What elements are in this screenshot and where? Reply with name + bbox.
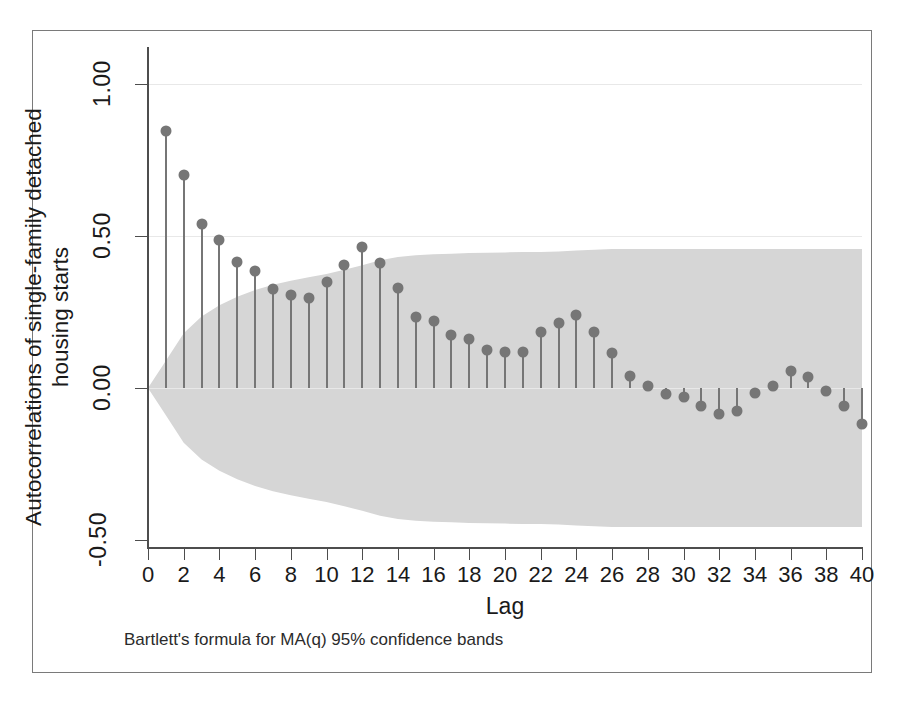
x-axis-tick-label: 24 (564, 562, 588, 588)
acf-marker (160, 126, 171, 137)
acf-marker (178, 170, 189, 181)
x-axis-tick (219, 549, 220, 560)
acf-stem (486, 350, 488, 388)
y-axis-tick (135, 236, 147, 237)
acf-marker (696, 401, 707, 412)
acf-stem (254, 271, 256, 388)
acf-marker (732, 405, 743, 416)
acf-marker (357, 241, 368, 252)
x-axis-tick-label: 30 (671, 562, 695, 588)
x-axis-tick-label: 0 (142, 562, 154, 588)
x-axis-tick (755, 549, 756, 560)
acf-marker (749, 387, 760, 398)
x-axis-tick-label: 32 (707, 562, 731, 588)
x-axis-tick-label: 28 (636, 562, 660, 588)
acf-stem (415, 317, 417, 388)
acf-stem (468, 339, 470, 388)
acf-stem (558, 323, 560, 388)
acf-marker (678, 392, 689, 403)
y-axis-tick (135, 388, 147, 389)
confidence-band-note: Bartlett's formula for MA(q) 95% confide… (124, 630, 503, 650)
acf-marker (410, 311, 421, 322)
acf-stem (343, 265, 345, 388)
acf-stem (218, 240, 220, 388)
y-axis-line (147, 47, 149, 548)
x-axis-tick (576, 549, 577, 560)
acf-marker (500, 346, 511, 357)
acf-marker (196, 218, 207, 229)
acf-stem (540, 332, 542, 388)
acf-marker (232, 256, 243, 267)
x-axis-tick (469, 549, 470, 560)
acf-marker (285, 290, 296, 301)
acf-marker (250, 265, 261, 276)
acf-marker (535, 326, 546, 337)
x-axis-tick-label: 40 (850, 562, 874, 588)
y-axis-title: Autocorrelations of single-family detach… (20, 37, 74, 597)
acf-marker (714, 408, 725, 419)
x-axis-tick (327, 549, 328, 560)
acf-marker (446, 329, 457, 340)
x-axis-tick-label: 20 (493, 562, 517, 588)
acf-marker (428, 316, 439, 327)
x-axis-tick-label: 36 (778, 562, 802, 588)
acf-stem (397, 288, 399, 388)
x-axis-tick (541, 549, 542, 560)
acf-stem (308, 298, 310, 388)
x-axis-tick-label: 18 (457, 562, 481, 588)
x-axis-tick (612, 549, 613, 560)
x-axis-tick (648, 549, 649, 560)
acf-marker (482, 345, 493, 356)
acf-marker (821, 386, 832, 397)
x-axis-tick-label: 14 (386, 562, 410, 588)
acf-marker (857, 419, 868, 430)
acf-stem (201, 224, 203, 388)
x-axis-tick-label: 10 (314, 562, 338, 588)
x-axis-tick (826, 549, 827, 560)
acf-marker (339, 259, 350, 270)
x-axis-tick (184, 549, 185, 560)
x-axis-tick (862, 549, 863, 560)
acf-marker (589, 326, 600, 337)
acf-marker (767, 381, 778, 392)
acf-marker (303, 293, 314, 304)
x-axis-tick-label: 38 (814, 562, 838, 588)
acf-stem (165, 131, 167, 388)
acf-marker (267, 284, 278, 295)
y-axis-tick (135, 84, 147, 85)
y-axis-tick (135, 540, 147, 541)
y-axis-title-line1: Autocorrelations of single-family detach… (21, 108, 46, 526)
acf-marker (214, 234, 225, 245)
x-axis-tick-label: 2 (178, 562, 190, 588)
acf-marker (553, 317, 564, 328)
x-axis-tick (398, 549, 399, 560)
acf-stem (290, 295, 292, 388)
plot-area (148, 47, 862, 548)
acf-marker (785, 366, 796, 377)
acf-marker (839, 401, 850, 412)
acf-stem (236, 262, 238, 388)
acf-figure: 1.000.500.00-0.50 0246810121416182022242… (0, 0, 908, 705)
x-axis-tick-label: 22 (528, 562, 552, 588)
acf-stem (575, 315, 577, 388)
acf-marker (803, 372, 814, 383)
acf-marker (607, 348, 618, 359)
x-axis-tick (362, 549, 363, 560)
acf-marker (624, 370, 635, 381)
x-axis-tick-label: 12 (350, 562, 374, 588)
acf-marker (321, 276, 332, 287)
x-axis-tick-label: 8 (285, 562, 297, 588)
x-axis-tick (684, 549, 685, 560)
acf-marker (571, 310, 582, 321)
acf-marker (642, 381, 653, 392)
acf-marker (660, 389, 671, 400)
acf-marker (392, 282, 403, 293)
x-axis-tick-label: 4 (213, 562, 225, 588)
y-axis-title-line2: housing starts (47, 37, 74, 597)
acf-stem (183, 175, 185, 388)
acf-stem (361, 247, 363, 388)
x-axis-tick (719, 549, 720, 560)
acf-stem (272, 289, 274, 388)
x-axis-title: Lag (148, 593, 862, 620)
x-axis-tick-label: 6 (249, 562, 261, 588)
